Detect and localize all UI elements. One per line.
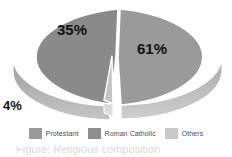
figure-caption: Figure: Religious composition [16,146,160,155]
legend-item-others[interactable]: Others [165,128,204,139]
pie-chart-figure: 35% 61% 4% Protestant Roman Catholic Oth… [0,0,232,157]
slice-value-label-roman-catholic: 35% [57,21,87,38]
slice-top-protestant [118,9,203,105]
slice-value-label-protestant: 61% [137,40,167,57]
legend-item-roman-catholic[interactable]: Roman Catholic [88,128,156,139]
legend-label-protestant: Protestant [46,130,79,137]
legend-item-protestant[interactable]: Protestant [29,128,79,139]
slice-value-label-others: 4% [3,98,22,113]
legend-swatch-roman-catholic [88,128,101,139]
chart-legend: Protestant Roman Catholic Others [0,124,232,142]
caption-strip: Figure: Religious composition [0,146,232,157]
legend-label-roman-catholic: Roman Catholic [105,130,156,137]
legend-swatch-protestant [29,128,42,139]
chart-plot-area: 35% 61% 4% [0,0,232,120]
legend-label-others: Others [182,130,204,137]
pie-chart-graphic [0,0,232,122]
legend-swatch-others [165,128,178,139]
